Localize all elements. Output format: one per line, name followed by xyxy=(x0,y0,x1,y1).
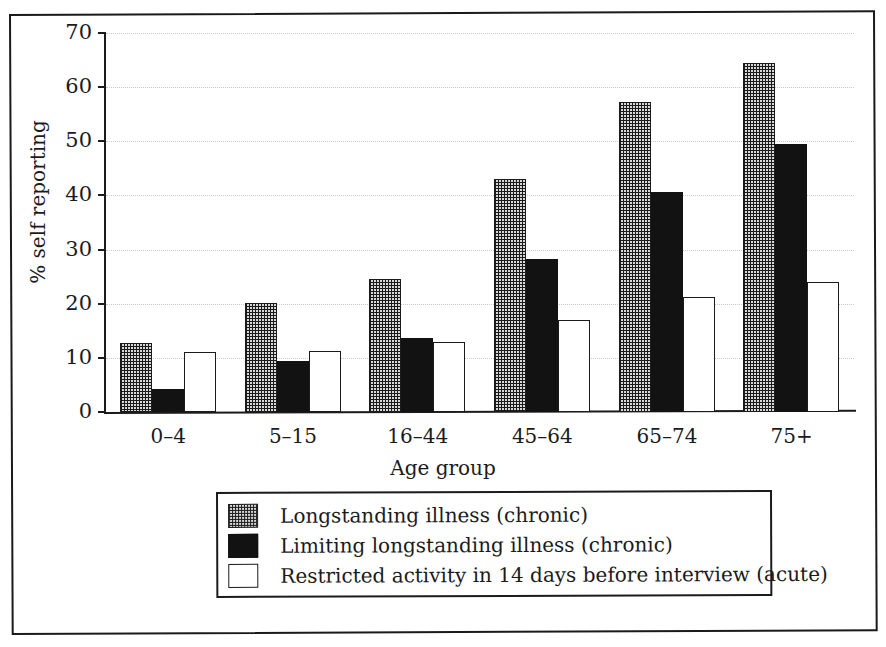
bar-1644-series2 xyxy=(433,342,465,412)
x-axis-label-6574: 65–74 xyxy=(605,424,730,448)
bar-04-series2 xyxy=(184,352,216,412)
bar-515-series1 xyxy=(277,361,309,412)
legend-swatch-icon-0 xyxy=(228,504,258,528)
bar-6574-series1 xyxy=(651,192,683,412)
legend: Longstanding illness (chronic)Limiting l… xyxy=(216,490,772,598)
y-axis-tick xyxy=(98,303,106,305)
plot-area xyxy=(106,33,854,412)
bar-515-series2 xyxy=(309,351,341,412)
legend-item-0: Longstanding illness (chronic) xyxy=(228,501,588,530)
bar-04-series1 xyxy=(152,389,184,412)
legend-swatch-icon-1 xyxy=(228,534,258,558)
y-axis-tick xyxy=(98,32,106,34)
bar-6574-series0 xyxy=(619,102,651,412)
bar-4564-series2 xyxy=(558,320,590,412)
y-axis-tick xyxy=(98,357,106,359)
bar-6574-series2 xyxy=(683,297,715,412)
bar-75+-series1 xyxy=(775,144,807,412)
x-axis-label-515: 5–15 xyxy=(231,424,356,448)
legend-item-2: Restricted activity in 14 days before in… xyxy=(228,560,828,590)
x-axis-label-1644: 16–44 xyxy=(355,424,480,448)
bar-04-series0 xyxy=(120,343,152,412)
legend-label-2: Restricted activity in 14 days before in… xyxy=(280,562,828,588)
chart-figure: % self reporting 010203040506070 0–45–15… xyxy=(0,0,886,647)
y-axis-tick xyxy=(98,194,106,196)
x-axis-label-4564: 45–64 xyxy=(480,424,605,448)
y-axis-tick-label: 70 xyxy=(48,22,92,43)
x-axis-label-04: 0–4 xyxy=(106,424,231,448)
x-axis-label-75+: 75+ xyxy=(729,424,854,448)
y-axis-tick xyxy=(98,140,106,142)
bar-75+-series2 xyxy=(807,282,839,412)
y-axis-tick-label: 40 xyxy=(48,184,92,205)
y-axis-tick-label: 60 xyxy=(48,76,92,97)
y-axis-tick xyxy=(98,411,106,413)
y-axis-title: % self reporting xyxy=(26,72,50,332)
y-axis-tick-label: 30 xyxy=(48,239,92,260)
bar-75+-series0 xyxy=(743,63,775,412)
legend-swatch-icon-2 xyxy=(228,564,258,588)
bar-4564-series0 xyxy=(494,179,526,412)
legend-label-1: Limiting longstanding illness (chronic) xyxy=(280,532,673,557)
legend-item-1: Limiting longstanding illness (chronic) xyxy=(228,530,673,560)
y-axis-tick-label: 20 xyxy=(48,293,92,314)
y-axis-tick xyxy=(98,249,106,251)
legend-label-0: Longstanding illness (chronic) xyxy=(280,503,588,528)
x-axis-title: Age group xyxy=(0,456,886,480)
y-axis-tick-label: 0 xyxy=(48,401,92,422)
bar-1644-series0 xyxy=(369,279,401,412)
y-axis-tick-label: 10 xyxy=(48,347,92,368)
y-axis-tick-label: 50 xyxy=(48,130,92,151)
bar-4564-series1 xyxy=(526,259,558,412)
bar-515-series0 xyxy=(245,303,277,412)
y-axis-tick xyxy=(98,86,106,88)
bar-1644-series1 xyxy=(401,338,433,412)
